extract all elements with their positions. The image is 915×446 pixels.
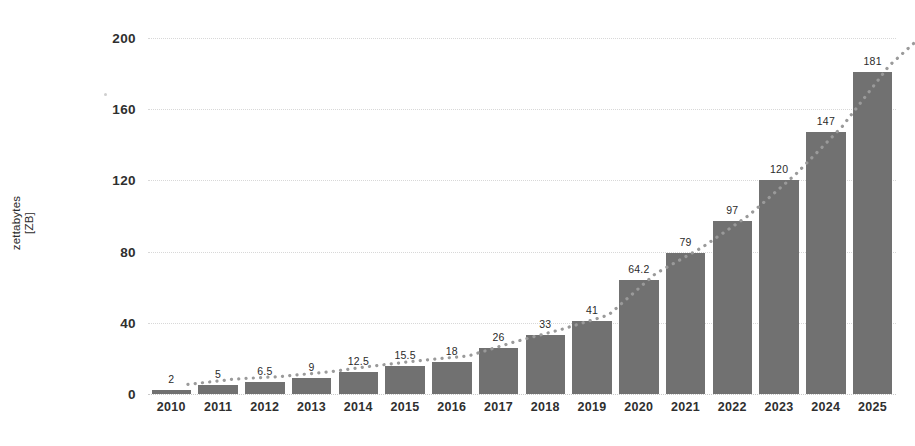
x-axis-tick-label: 2025 [858, 400, 887, 414]
x-axis-tick-label: 2020 [624, 400, 653, 414]
bar [245, 382, 284, 394]
gridline [148, 394, 896, 395]
y-axis-tick-label: 40 [78, 315, 136, 330]
bar-value-label: 97 [726, 204, 738, 216]
bar [853, 72, 892, 394]
bar-slot: 79 [666, 38, 705, 394]
x-axis-tick-label: 2012 [250, 400, 279, 414]
bar-value-label: 12.5 [348, 355, 369, 367]
x-axis-tick-label: 2014 [344, 400, 373, 414]
bar-value-label: 41 [586, 304, 598, 316]
x-axis-tick-label: 2018 [531, 400, 560, 414]
y-axis-tick-label: 120 [78, 173, 136, 188]
bar-value-label: 26 [493, 331, 505, 343]
bar-slot: 41 [572, 38, 611, 394]
bar [152, 390, 191, 394]
x-axis-tick-label: 2024 [811, 400, 840, 414]
y-axis-title-line-1: zettabytes [10, 196, 22, 250]
bar [572, 321, 611, 394]
bar-slot: 33 [526, 38, 565, 394]
bar-value-label: 64.2 [628, 263, 649, 275]
bar-slot: 64.2 [619, 38, 658, 394]
bar [432, 362, 471, 394]
y-axis-title: zettabytes [ZB] [0, 0, 46, 446]
bar-slot: 181 [853, 38, 892, 394]
bar-chart: zettabytes [ZB] 04080120160200 256.5912.… [0, 0, 915, 446]
x-axis-tick-label: 2021 [671, 400, 700, 414]
x-axis-tick-label: 2023 [765, 400, 794, 414]
bar-slot: 147 [806, 38, 845, 394]
bar-value-label: 6.5 [257, 365, 272, 377]
bar-value-label: 15.5 [394, 349, 415, 361]
bar-slot: 9 [292, 38, 331, 394]
scan-artifact-speck [104, 93, 107, 96]
y-axis-tick-label: 160 [78, 102, 136, 117]
bar-value-label: 2 [168, 373, 174, 385]
x-axis-tick-label: 2015 [391, 400, 420, 414]
x-axis-tick-label: 2017 [484, 400, 513, 414]
y-axis-tick-label: 200 [78, 31, 136, 46]
bar-value-label: 181 [864, 55, 882, 67]
bar-value-label: 18 [446, 345, 458, 357]
bar-value-label: 79 [680, 236, 692, 248]
bar [713, 221, 752, 394]
y-axis-title-line-2: [ZB] [23, 196, 36, 250]
bar-slot: 26 [479, 38, 518, 394]
x-axis-tick-labels: 2010201120122013201420152016201720182019… [148, 400, 896, 424]
bar-slot: 6.5 [245, 38, 284, 394]
bar-value-label: 9 [309, 361, 315, 373]
bar-slot: 12.5 [339, 38, 378, 394]
bar [198, 385, 237, 394]
x-axis-tick-label: 2013 [297, 400, 326, 414]
bar [292, 378, 331, 394]
bar-value-label: 33 [539, 318, 551, 330]
bar-slot: 18 [432, 38, 471, 394]
bar [479, 348, 518, 394]
bar-slot: 15.5 [385, 38, 424, 394]
x-axis-tick-label: 2011 [204, 400, 232, 414]
bar [806, 132, 845, 394]
bar [339, 372, 378, 394]
x-axis-tick-label: 2010 [157, 400, 186, 414]
bar [526, 335, 565, 394]
x-axis-tick-label: 2016 [437, 400, 466, 414]
y-axis-tick-label: 80 [78, 244, 136, 259]
bar-slot: 120 [759, 38, 798, 394]
x-axis-tick-label: 2019 [578, 400, 607, 414]
y-axis-tick-label: 0 [78, 387, 136, 402]
bar [666, 253, 705, 394]
x-axis-tick-label: 2022 [718, 400, 747, 414]
bar [385, 366, 424, 394]
bar-slot: 97 [713, 38, 752, 394]
bar-slot: 5 [198, 38, 237, 394]
plot-area: 256.5912.515.51826334164.27997120147181 [148, 38, 896, 394]
bar-value-label: 147 [817, 115, 835, 127]
bar-value-label: 5 [215, 368, 221, 380]
bar-value-label: 120 [770, 163, 788, 175]
bar-slot: 2 [152, 38, 191, 394]
bar [619, 280, 658, 394]
bar [759, 180, 798, 394]
